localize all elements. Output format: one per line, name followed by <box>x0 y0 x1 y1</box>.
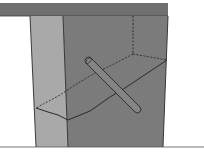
top-band <box>0 3 168 16</box>
left-face <box>30 16 68 147</box>
block-diagram <box>0 0 204 156</box>
front-face <box>63 16 168 147</box>
